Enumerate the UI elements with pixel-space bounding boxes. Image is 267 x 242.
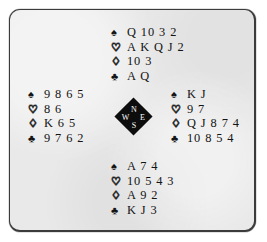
hand-south-diamonds: A 9 2 [123,189,158,201]
hand-east-hearts-row: ♡ 9 7 [171,103,240,118]
hand-north-clubs-row: ♣ A Q [111,70,185,85]
diamond-icon: ♢ [111,56,123,67]
hand-west-diamonds: K 6 5 [40,117,76,129]
hand-east-clubs-row: ♣ 10 8 5 4 [171,132,240,147]
club-icon: ♣ [28,133,40,144]
hand-west-diamonds-row: ♢ K 6 5 [28,117,84,132]
hand-east: ♠ K J ♡ 9 7 ♢ Q J 8 7 4 ♣ 10 8 5 4 [171,88,240,146]
hand-east-diamonds-row: ♢ Q J 8 7 4 [171,117,240,132]
hand-west-hearts: 8 6 [40,103,62,115]
hand-west-hearts-row: ♡ 8 6 [28,103,84,118]
hand-north-hearts: A K Q J 2 [123,41,185,53]
hand-north-spades: Q 10 3 2 [123,26,177,38]
hand-west-spades: 9 8 6 5 [40,88,84,100]
hand-south-hearts-row: ♡ 10 5 4 3 [111,175,174,190]
hand-south-diamonds-row: ♢ A 9 2 [111,189,174,204]
heart-icon: ♡ [111,42,123,53]
hand-east-diamonds: Q J 8 7 4 [183,117,240,129]
hand-west: ♠ 9 8 6 5 ♡ 8 6 ♢ K 6 5 ♣ 9 7 6 2 [28,88,84,146]
bridge-deal-board: ♠ Q 10 3 2 ♡ A K Q J 2 ♢ 10 3 ♣ A Q ♠ 9 … [9,9,256,232]
hand-south-clubs-row: ♣ K J 3 [111,204,174,219]
hand-south-clubs: K J 3 [123,204,158,216]
compass-rose: N W E S [115,98,153,136]
diamond-icon: ♢ [171,118,183,129]
spade-icon: ♠ [28,89,40,100]
hand-north: ♠ Q 10 3 2 ♡ A K Q J 2 ♢ 10 3 ♣ A Q [111,26,185,84]
hand-north-clubs: A Q [123,70,150,82]
compass-label-east: E [138,114,148,122]
hand-north-diamonds: 10 3 [123,55,152,67]
hand-east-clubs: 10 8 5 4 [183,132,234,144]
hand-west-clubs: 9 7 6 2 [40,132,84,144]
hand-east-hearts: 9 7 [183,103,205,115]
hand-south-hearts: 10 5 4 3 [123,175,174,187]
hand-south-spades-row: ♠ A 7 4 [111,160,174,175]
heart-icon: ♡ [111,176,123,187]
heart-icon: ♡ [28,104,40,115]
spade-icon: ♠ [111,27,123,38]
heart-icon: ♡ [171,104,183,115]
diamond-icon: ♢ [111,190,123,201]
hand-north-spades-row: ♠ Q 10 3 2 [111,26,185,41]
diamond-icon: ♢ [28,118,40,129]
compass-label-west: W [121,114,131,122]
compass-label-south: S [129,122,139,130]
club-icon: ♣ [171,133,183,144]
club-icon: ♣ [111,205,123,216]
spade-icon: ♠ [171,89,183,100]
hand-north-diamonds-row: ♢ 10 3 [111,55,185,70]
hand-west-clubs-row: ♣ 9 7 6 2 [28,132,84,147]
spade-icon: ♠ [111,161,123,172]
club-icon: ♣ [111,71,123,82]
hand-west-spades-row: ♠ 9 8 6 5 [28,88,84,103]
hand-north-hearts-row: ♡ A K Q J 2 [111,41,185,56]
compass-label-north: N [129,106,139,114]
hand-south: ♠ A 7 4 ♡ 10 5 4 3 ♢ A 9 2 ♣ K J 3 [111,160,174,218]
hand-east-spades-row: ♠ K J [171,88,240,103]
hand-south-spades: A 7 4 [123,160,158,172]
hand-east-spades: K J [183,88,207,100]
